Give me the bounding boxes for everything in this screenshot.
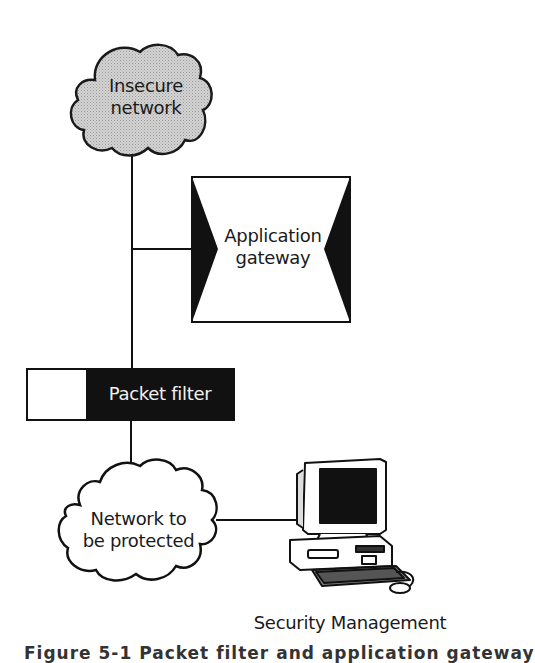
protected-network-label-line1: Network to (66, 508, 211, 530)
application-gateway-label-line2: gateway (210, 247, 336, 269)
computer-icon (290, 459, 413, 593)
figure-caption: Figure 5-1 Packet filter and application… (24, 643, 535, 663)
application-gateway-label-line1: Application (210, 225, 336, 247)
packet-filter-label: Packet filter (86, 383, 234, 405)
protected-network-label-line2: be protected (66, 530, 211, 552)
insecure-network-label-line2: network (86, 97, 206, 119)
insecure-network-label-line1: Insecure (86, 75, 206, 97)
insecure-network-label: Insecure network (86, 75, 206, 119)
security-management-label: Security Management (240, 612, 460, 634)
application-gateway-label: Application gateway (210, 225, 336, 269)
protected-network-label: Network to be protected (66, 508, 211, 552)
